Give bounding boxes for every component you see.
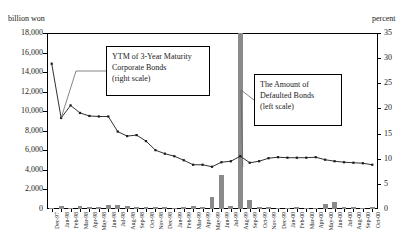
x-axis-tick-label: Jul-99	[233, 212, 239, 226]
x-axis-tick-label: Dec-99	[281, 212, 287, 229]
x-axis-tick-mark	[363, 209, 364, 212]
bar	[172, 208, 177, 209]
left-axis-tick-mark	[43, 33, 47, 34]
x-axis-tick-label: Feb-99	[186, 212, 192, 228]
bar	[370, 207, 375, 209]
left-axis-tick-label: 0	[3, 205, 43, 213]
right-axis-tick-label: 5	[384, 180, 414, 188]
left-axis-tick-label: 16,000	[3, 49, 43, 57]
right-axis-tick-label: 20	[384, 104, 414, 112]
x-axis-tick-label: Sep-98	[139, 212, 145, 228]
bar	[332, 202, 337, 209]
bar	[49, 208, 54, 209]
bar	[323, 204, 328, 209]
x-axis-tick-label: Apr-00	[318, 212, 324, 229]
bar	[266, 207, 271, 209]
x-axis-tick-mark	[99, 209, 100, 212]
x-axis-tick-mark	[52, 209, 53, 212]
x-axis-tick-label: Nov-98	[158, 212, 164, 230]
x-axis-tick-mark	[353, 209, 354, 212]
bar	[342, 207, 347, 209]
x-axis-tick-mark	[184, 209, 185, 212]
bar	[144, 207, 149, 209]
right-axis-unit-label: percent	[372, 14, 396, 23]
left-axis-tick-label: 6,000	[3, 146, 43, 154]
x-axis-tick-label: Jul-98	[120, 212, 126, 226]
left-axis-tick-label: 8,000	[3, 127, 43, 135]
right-axis-tick-mark	[377, 159, 381, 160]
bar	[96, 207, 101, 209]
x-axis-tick-mark	[71, 209, 72, 212]
x-axis-tick-label: Oct-00	[375, 212, 381, 228]
left-axis-tick-label: 12,000	[3, 88, 43, 96]
bar	[68, 208, 73, 209]
x-axis-tick-label: Jul-00	[347, 212, 353, 226]
left-axis-tick-mark	[43, 53, 47, 54]
x-axis-tick-mark	[80, 209, 81, 212]
x-axis-tick-label: Jun-98	[111, 212, 117, 228]
x-axis-tick-label: Jan-99	[177, 212, 183, 227]
left-axis-tick-mark	[43, 170, 47, 171]
left-axis-tick-mark	[43, 72, 47, 73]
left-axis-tick-mark	[43, 150, 47, 151]
x-axis-tick-mark	[193, 209, 194, 212]
right-axis-tick-mark	[377, 134, 381, 135]
x-axis-tick-label: Jan-98	[64, 212, 70, 227]
x-axis-tick-mark	[325, 209, 326, 212]
bar	[115, 205, 120, 209]
x-axis-tick-mark	[231, 209, 232, 212]
x-axis-tick-label: Aug-99	[243, 212, 249, 230]
chart-figure: billion won percent 02,0004,0006,0008,00…	[0, 0, 420, 243]
x-axis-tick-mark	[155, 209, 156, 212]
left-axis-tick-label: 2,000	[3, 185, 43, 193]
left-axis-tick-mark	[43, 189, 47, 190]
x-axis-tick-mark	[146, 209, 147, 212]
x-axis-tick-mark	[250, 209, 251, 212]
x-axis-tick-label: Apr-99	[205, 212, 211, 229]
bar	[247, 200, 252, 209]
x-axis-tick-mark	[118, 209, 119, 212]
bar	[191, 206, 196, 209]
x-axis-tick-label: Sep-00	[365, 212, 371, 228]
right-axis-tick-label: 10	[384, 155, 414, 163]
bar	[210, 197, 215, 209]
left-axis-tick-label: 18,000	[3, 29, 43, 37]
x-axis-tick-label: Mar-98	[83, 212, 89, 229]
left-axis-unit-label: billion won	[8, 14, 45, 23]
x-axis-tick-label: May-00	[328, 212, 334, 230]
x-axis-tick-mark	[287, 209, 288, 212]
right-axis-tick-label: 30	[384, 54, 414, 62]
bar	[351, 207, 356, 209]
callout-defaulted-bonds: The Amount of Defaulted Bonds (left scal…	[254, 74, 342, 126]
x-axis-tick-mark	[344, 209, 345, 212]
left-axis-tick-label: 4,000	[3, 166, 43, 174]
x-axis-tick-mark	[165, 209, 166, 212]
x-axis-tick-mark	[335, 209, 336, 212]
x-axis-tick-label: Nov-99	[271, 212, 277, 230]
bar	[134, 207, 139, 209]
bar	[294, 207, 299, 209]
left-axis-tick-label: 10,000	[3, 107, 43, 115]
left-axis-tick-mark	[43, 92, 47, 93]
x-axis-tick-mark	[127, 209, 128, 212]
right-axis-tick-label: 15	[384, 130, 414, 138]
left-axis-tick-mark	[43, 131, 47, 132]
right-axis-tick-mark	[377, 33, 381, 34]
right-axis-tick-label: 0	[384, 205, 414, 213]
left-axis-tick-mark	[43, 111, 47, 112]
bar	[106, 205, 111, 209]
right-axis-tick-label: 25	[384, 79, 414, 87]
bar	[181, 207, 186, 209]
bar	[313, 208, 318, 209]
x-axis-tick-mark	[174, 209, 175, 212]
bar	[276, 208, 281, 209]
bar	[59, 206, 64, 209]
bar	[304, 208, 309, 209]
bar	[360, 208, 365, 209]
x-axis-tick-mark	[212, 209, 213, 212]
bar	[153, 207, 158, 209]
x-axis-tick-label: Dec-97	[54, 212, 60, 229]
bar	[238, 33, 243, 209]
right-axis-tick-mark	[377, 58, 381, 59]
x-axis-tick-mark	[269, 209, 270, 212]
